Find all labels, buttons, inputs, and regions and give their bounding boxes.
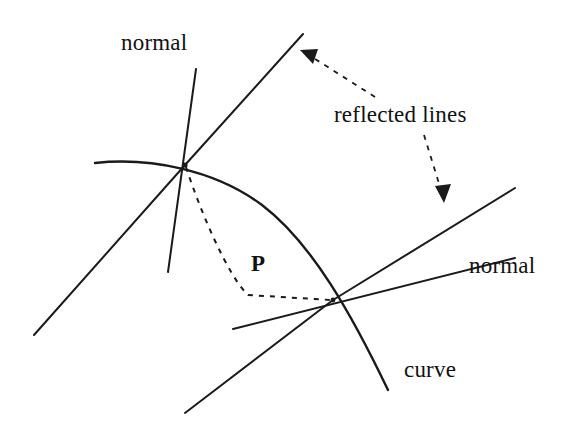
incident-ray-lower: [185, 300, 333, 413]
leader-arrowhead-upper-icon: [300, 49, 318, 64]
dashed-path-p: [186, 167, 331, 300]
label-normal-right: normal: [469, 254, 535, 277]
contact-point-upper: [182, 162, 187, 167]
reflected-ray-lower: [333, 188, 515, 300]
leader-arrow-upper: [312, 57, 375, 97]
curve-path: [95, 162, 388, 390]
diagram-vector-layer: [0, 0, 569, 431]
label-normal-top: normal: [121, 31, 187, 54]
leader-arrow-lower: [424, 135, 441, 190]
label-reflected-lines: reflected lines: [334, 103, 467, 126]
leader-arrowhead-lower-icon: [435, 184, 451, 203]
reflected-ray-upper: [185, 34, 303, 165]
label-point-p: P: [251, 252, 265, 275]
diagram-canvas: normal reflected lines normal curve P: [0, 0, 569, 431]
label-curve: curve: [404, 358, 456, 381]
contact-point-lower: [331, 298, 336, 303]
incident-ray-upper: [34, 165, 185, 335]
